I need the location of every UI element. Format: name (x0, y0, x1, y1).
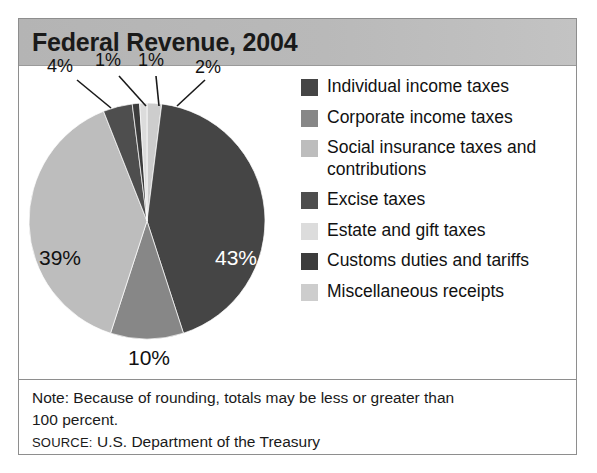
pie-chart: 43% 39% 10% 4% 1% 1% 2% (19, 66, 309, 379)
pie-slice-group (29, 103, 265, 339)
legend-item-label: Individual income taxes (327, 76, 509, 98)
legend: Individual income taxesCorporate income … (301, 76, 569, 311)
note-line-2: 100 percent. (32, 409, 562, 431)
legend-item[interactable]: Social insurance taxes and contributions (301, 137, 569, 180)
source-line: SOURCE: U.S. Department of the Treasury (32, 431, 562, 453)
legend-swatch-icon (301, 110, 318, 127)
legend-item[interactable]: Corporate income taxes (301, 107, 569, 129)
legend-swatch-icon (301, 140, 318, 157)
slice-label-individual-income-taxes: 43% (215, 246, 257, 270)
plot-area: 43% 39% 10% 4% 1% 1% 2% Individual incom… (19, 66, 576, 379)
callout-label-miscellaneous-receipts: 2% (195, 57, 221, 78)
callout-label-estate-and-gift-taxes: 1% (138, 50, 164, 71)
slice-label-social-insurance-taxes: 39% (39, 246, 81, 270)
note-line-1: Note: Because of rounding, totals may be… (32, 387, 562, 409)
legend-swatch-icon (301, 253, 318, 270)
legend-item-label: Excise taxes (327, 189, 425, 211)
chart-figure: Federal Revenue, 2004 43% 39% 10% 4% 1% … (18, 18, 577, 455)
legend-item[interactable]: Individual income taxes (301, 76, 569, 98)
legend-swatch-icon (301, 284, 318, 301)
legend-swatch-icon (301, 223, 318, 240)
source-text: U.S. Department of the Treasury (93, 433, 320, 450)
legend-item[interactable]: Excise taxes (301, 189, 569, 211)
legend-item-label: Estate and gift taxes (327, 220, 486, 242)
callout-label-customs-duties: 1% (95, 50, 121, 71)
source-keyword: SOURCE: (32, 435, 93, 450)
legend-swatch-icon (301, 79, 318, 96)
legend-item-label: Corporate income taxes (327, 107, 513, 129)
legend-item-label: Social insurance taxes and contributions (327, 137, 569, 180)
legend-item-label: Customs duties and tariffs (327, 250, 529, 272)
pie-svg (19, 66, 309, 379)
legend-swatch-icon (301, 192, 318, 209)
callout-label-excise-taxes: 4% (47, 56, 73, 77)
slice-label-corporate-income-taxes: 10% (128, 346, 170, 370)
page-title: Federal Revenue, 2004 (32, 28, 297, 57)
legend-item[interactable]: Miscellaneous receipts (301, 281, 569, 303)
footnote: Note: Because of rounding, totals may be… (19, 379, 576, 455)
legend-item[interactable]: Customs duties and tariffs (301, 250, 569, 272)
legend-item-label: Miscellaneous receipts (327, 281, 504, 303)
legend-item[interactable]: Estate and gift taxes (301, 220, 569, 242)
